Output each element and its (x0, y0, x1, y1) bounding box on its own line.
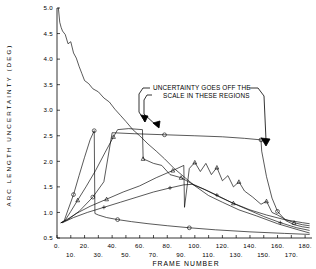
y-tick-group: 5.04.54.03.53.02.52.01.51.00.5 (43, 4, 60, 241)
curve-spike-mid (61, 129, 309, 224)
x-tick-label: 90. (176, 251, 186, 258)
annotation-group: UNCERTAINTY GOES OFF THE SCALE IN THESE … (139, 84, 270, 146)
x-tick-label: 60. (135, 242, 145, 249)
x-tick-group: 0.20.40.60.80.100.120.140.160.180.10.30.… (54, 235, 312, 258)
y-tick-label: 4.5 (43, 30, 53, 37)
y-tick-label: 1.5 (43, 183, 53, 190)
x-tick-label: 180. (298, 242, 311, 249)
chart-figure: ARC LENGTH UNCERTAINTY (DEG) 5.04.54.03.… (0, 0, 316, 269)
x-tick-label: 100. (188, 242, 201, 249)
x-tick-label: 20. (80, 242, 90, 249)
y-tick-label: 1.0 (43, 209, 53, 216)
x-tick-label: 80. (163, 242, 173, 249)
arrowhead-right (261, 138, 270, 146)
x-tick-label: 160. (271, 242, 284, 249)
chart-svg: ARC LENGTH UNCERTAINTY (DEG) 5.04.54.03.… (0, 0, 316, 269)
y-tick-label: 3.0 (43, 106, 53, 113)
y-tick-label: 3.5 (43, 81, 53, 88)
x-tick-label: 70. (149, 251, 159, 258)
y-axis-title-text: ARC LENGTH UNCERTAINTY (DEG) (5, 44, 12, 207)
x-tick-label: 170. (285, 251, 298, 258)
x-tick-label: 110. (202, 251, 215, 258)
y-tick-label: 2.5 (43, 132, 53, 139)
x-tick-label: 0. (54, 242, 60, 249)
y-tick-label: 5.0 (43, 4, 53, 11)
curve-spike-early (61, 131, 309, 235)
annotation-leader-right (249, 88, 266, 140)
x-tick-label: 120. (216, 242, 229, 249)
x-axis-title: FRAME NUMBER (152, 260, 219, 267)
curve-low-riser (63, 184, 310, 230)
annotation-line-2: SCALE IN THESE REGIONS (163, 92, 250, 99)
annotation-line-1: UNCERTAINTY GOES OFF THE (153, 84, 251, 91)
x-tick-label: 40. (107, 242, 117, 249)
marker-plus (168, 186, 172, 190)
y-tick-label: 4.0 (43, 55, 53, 62)
marker-plus (102, 205, 106, 209)
arrowhead-left-1 (141, 115, 148, 122)
x-tick-label: 150. (257, 251, 270, 258)
y-axis-title: ARC LENGTH UNCERTAINTY (DEG) (5, 44, 12, 207)
x-tick-label: 30. (94, 251, 104, 258)
x-tick-label: 10. (66, 251, 76, 258)
x-tick-label: 140. (243, 242, 256, 249)
x-tick-label: 130. (230, 251, 243, 258)
data-curves (58, 8, 309, 234)
x-tick-label: 50. (121, 251, 131, 258)
y-tick-label: 2.0 (43, 158, 53, 165)
arrowhead-left-2 (153, 121, 160, 128)
y-tick-label: 0.5 (43, 234, 53, 241)
curve-noisy-decay (58, 8, 309, 233)
